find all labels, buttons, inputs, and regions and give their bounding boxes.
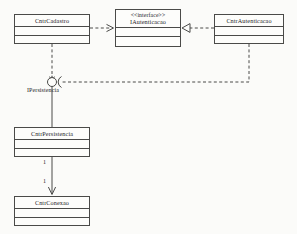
class-name-cntr-conexao: CntrConexao	[15, 197, 89, 208]
interface-header-iautenticacao: <<interface>> IAutenticacao	[116, 10, 180, 27]
class-operations-compartment	[116, 36, 180, 45]
class-operations-compartment	[15, 217, 89, 226]
class-attributes-compartment	[116, 27, 180, 36]
class-attributes-compartment	[15, 26, 89, 35]
class-operations-compartment	[15, 148, 89, 157]
ipersistencia-label: IPersistencia	[27, 87, 59, 93]
ipersistencia-socket-icon	[58, 77, 61, 88]
ipersistencia-ball-icon	[48, 76, 57, 87]
class-box-iautenticacao[interactable]: <<interface>> IAutenticacao	[115, 9, 181, 47]
class-box-cntr-autenticacao[interactable]: CntrAutenticacao	[214, 14, 284, 44]
uml-diagram-canvas: CntrCadastro <<interface>> IAutenticacao…	[0, 0, 297, 234]
class-name-cntr-autenticacao: CntrAutenticacao	[215, 15, 283, 26]
class-name-cntr-persistencia: CntrPersistencia	[15, 128, 89, 139]
class-name-cntr-cadastro: CntrCadastro	[15, 15, 89, 26]
class-name-iautenticacao: IAutenticacao	[130, 18, 166, 25]
class-box-cntr-persistencia[interactable]: CntrPersistencia	[14, 127, 90, 157]
realization-autenticacao-to-iautenticacao	[182, 24, 214, 33]
association-persistencia-to-conexao	[48, 157, 55, 195]
class-box-cntr-conexao[interactable]: CntrConexao	[14, 196, 90, 226]
class-attributes-compartment	[215, 26, 283, 35]
multiplicity-source: 1	[43, 159, 46, 165]
required-interface-wire-autenticacao	[62, 44, 249, 82]
stereotype-label: <<interface>>	[117, 12, 179, 19]
dependency-cadastro-to-iautenticacao	[90, 24, 114, 31]
class-box-cntr-cadastro[interactable]: CntrCadastro	[14, 14, 90, 44]
multiplicity-target: 1	[43, 178, 46, 184]
class-attributes-compartment	[15, 208, 89, 217]
class-operations-compartment	[15, 35, 89, 44]
class-operations-compartment	[215, 35, 283, 44]
class-attributes-compartment	[15, 139, 89, 148]
